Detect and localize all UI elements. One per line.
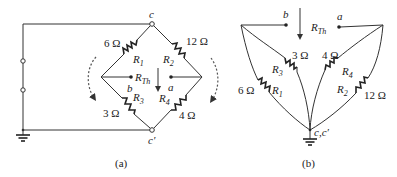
terminal-a-label: a: [337, 10, 343, 22]
wire-to-a: [340, 25, 383, 27]
r2-value: 12 Ω: [364, 89, 386, 101]
node-c-label: c: [149, 8, 154, 20]
r1-value: 6 Ω: [238, 84, 254, 96]
caption-b: (b): [302, 157, 315, 170]
r3-value: 3 Ω: [103, 107, 119, 119]
r1-value: 6 Ω: [104, 37, 120, 49]
node-c-prime-icon: [150, 128, 155, 133]
node-c-c-prime-label: c,c′: [314, 126, 330, 138]
rth-label: RTh: [310, 21, 326, 36]
terminal-a-label: a: [168, 81, 174, 93]
rotate-arrow-right-icon: [211, 58, 218, 100]
resistor-r1: [101, 26, 150, 77]
terminal-b-icon: [284, 23, 288, 27]
node-c-icon: [150, 22, 155, 27]
r4-label: R4: [341, 65, 353, 80]
r3-value: 3 Ω: [292, 49, 308, 61]
resistor-r2: [154, 26, 202, 77]
terminal-b-icon: [129, 75, 133, 79]
terminal-b-label: b: [283, 8, 289, 20]
rth-label: RTh: [134, 71, 150, 86]
r2-label: R2: [162, 53, 174, 68]
open-terminal-icon: [21, 59, 25, 63]
r3-label: R3: [271, 63, 283, 78]
r4-label: R4: [158, 92, 170, 107]
resistor-r4: [310, 25, 383, 130]
resistor-r2: [310, 25, 383, 130]
figure-a: c c′ 6 Ω R1 3 Ω R3 12 Ω R2: [16, 8, 218, 170]
figure-b: b a RTh 6 Ω R1 3 Ω R3 4 Ω R4: [238, 8, 386, 170]
open-terminal-icon: [21, 88, 25, 92]
r3-label: R3: [132, 91, 144, 106]
resistor-r3: [241, 25, 310, 130]
ground-icon: [16, 130, 30, 141]
terminal-a-icon: [337, 25, 341, 29]
r2-label: R2: [336, 83, 348, 98]
r2-value: 12 Ω: [186, 35, 208, 47]
rotate-arrow-left-icon: [88, 57, 96, 98]
terminal-b-label: b: [127, 82, 133, 94]
caption-a: (a): [115, 157, 128, 170]
r4-value: 4 Ω: [322, 49, 338, 61]
terminal-a-icon: [169, 75, 173, 79]
node-c-prime-label: c′: [148, 134, 156, 146]
r4-value: 4 Ω: [179, 109, 195, 121]
r1-label: R1: [132, 53, 144, 68]
